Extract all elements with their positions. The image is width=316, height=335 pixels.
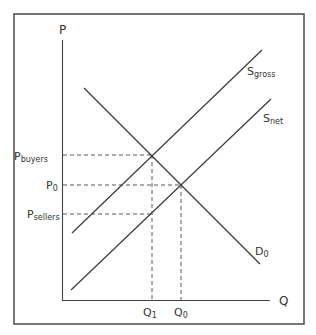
supply-net-line (71, 99, 271, 290)
tax-incidence-diagram: P Q Pbuyers P0 Psellers Q1 Q0 Sgross Sne… (0, 0, 316, 335)
q1-label: Q1 (143, 306, 157, 320)
s-net-sub: net (270, 117, 283, 126)
p-buyers-sub: buyers (21, 155, 48, 164)
d0-sub: 0 (263, 250, 268, 259)
p-sellers-sub: sellers (34, 213, 60, 222)
q0-sub: 0 (183, 311, 188, 320)
s-net-label: Snet (263, 112, 283, 126)
x-axis-label: Q (279, 294, 288, 308)
p-sellers-label: Psellers (27, 208, 60, 222)
s-net-main: S (263, 112, 270, 125)
q1-sub: 1 (152, 311, 157, 320)
guide-lines (63, 155, 181, 300)
diagram-frame (14, 14, 304, 324)
d0-label: D0 (255, 245, 269, 259)
demand-line (84, 88, 260, 264)
supply-gross-line (72, 50, 262, 233)
y-axis-label: P (59, 23, 66, 37)
s-gross-label: Sgross (247, 65, 275, 79)
p0-sub: 0 (53, 184, 58, 193)
s-gross-sub: gross (254, 70, 275, 79)
s-gross-main: S (247, 65, 254, 78)
q0-main: Q (174, 306, 183, 319)
p0-label: P0 (46, 179, 58, 193)
q1-main: Q (143, 306, 152, 319)
p-buyers-label: Pbuyers (14, 150, 48, 164)
q0-label: Q0 (174, 306, 188, 320)
d0-main: D (255, 245, 263, 258)
